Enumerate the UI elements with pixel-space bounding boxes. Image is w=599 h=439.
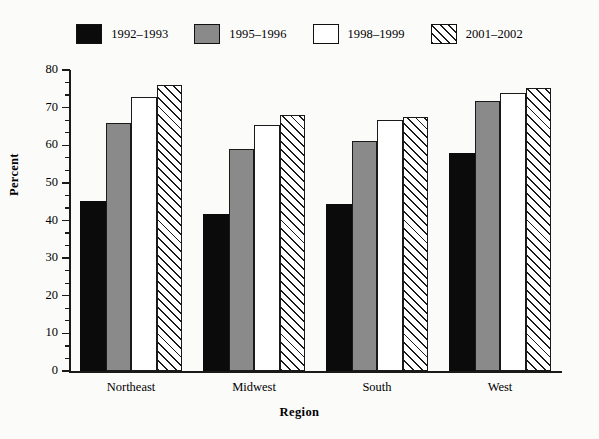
legend-label: 1992–1993 xyxy=(111,27,168,42)
bar xyxy=(131,97,157,371)
plot-area: 01020304050607080 NortheastMidwestSouthW… xyxy=(70,70,562,371)
y-axis-tick-label: 30 xyxy=(24,250,58,265)
bar xyxy=(280,115,306,371)
y-axis-tick-label: 20 xyxy=(24,288,58,303)
bar xyxy=(80,201,106,371)
bar xyxy=(403,117,429,371)
legend-swatch-solid-black-icon xyxy=(76,24,102,44)
y-axis-minor-tick xyxy=(65,195,70,196)
y-axis-minor-tick xyxy=(65,170,70,171)
y-axis-minor-tick xyxy=(65,270,70,271)
y-axis-tick-label: 10 xyxy=(24,325,58,340)
bar xyxy=(500,93,526,371)
y-axis-minor-tick xyxy=(65,232,70,233)
y-axis-minor-tick xyxy=(65,245,70,246)
y-axis-major-tick xyxy=(62,370,70,371)
bar-chart-figure: 1992–1993 1995–1996 1998–1999 2001–2002 … xyxy=(0,0,599,439)
bar xyxy=(377,120,403,371)
legend-item-1992-1993: 1992–1993 xyxy=(76,24,168,44)
bar xyxy=(526,88,552,371)
legend-label: 2001–2002 xyxy=(466,27,523,42)
bar xyxy=(475,101,501,371)
x-axis-spine xyxy=(69,371,562,373)
legend-item-2001-2002: 2001–2002 xyxy=(431,24,523,44)
y-axis-major-tick xyxy=(62,69,70,70)
x-axis-tick-label: South xyxy=(307,380,447,395)
y-axis-minor-tick xyxy=(65,157,70,158)
bar xyxy=(352,141,378,371)
x-axis-title: Region xyxy=(0,405,599,420)
y-axis-tick-label: 0 xyxy=(24,363,58,378)
bar xyxy=(106,123,132,371)
bar-group xyxy=(449,70,551,371)
y-axis-major-tick xyxy=(62,333,70,334)
y-axis-major-tick xyxy=(62,295,70,296)
y-axis-tick-label: 60 xyxy=(24,137,58,152)
y-axis-minor-tick xyxy=(65,120,70,121)
y-axis-tick-label: 80 xyxy=(24,62,58,77)
bar-group xyxy=(80,70,182,371)
bar xyxy=(254,125,280,371)
y-axis-major-tick xyxy=(62,182,70,183)
y-axis-minor-tick xyxy=(65,308,70,309)
bar xyxy=(229,149,255,371)
legend-item-1995-1996: 1995–1996 xyxy=(194,24,286,44)
legend-label: 1998–1999 xyxy=(348,27,405,42)
y-axis-major-tick xyxy=(62,220,70,221)
y-axis-tick-label: 50 xyxy=(24,175,58,190)
bar xyxy=(449,153,475,371)
legend-item-1998-1999: 1998–1999 xyxy=(313,24,405,44)
y-axis-minor-tick xyxy=(65,132,70,133)
y-axis-title: Percent xyxy=(7,153,22,196)
y-axis-tick-label: 70 xyxy=(24,100,58,115)
y-axis-minor-tick xyxy=(65,207,70,208)
bar xyxy=(203,214,229,371)
y-axis-major-tick xyxy=(62,145,70,146)
x-axis-tick-label: Midwest xyxy=(184,380,324,395)
bar xyxy=(326,204,352,371)
y-axis-minor-tick xyxy=(65,345,70,346)
legend-label: 1995–1996 xyxy=(229,27,286,42)
chart-legend: 1992–1993 1995–1996 1998–1999 2001–2002 xyxy=(0,24,599,44)
y-axis-minor-tick xyxy=(65,82,70,83)
y-axis-minor-tick xyxy=(65,358,70,359)
y-axis-minor-tick xyxy=(65,94,70,95)
bar-group xyxy=(326,70,428,371)
x-axis-tick-label: West xyxy=(430,380,570,395)
bar-group xyxy=(203,70,305,371)
y-axis-minor-tick xyxy=(65,283,70,284)
legend-swatch-white-icon xyxy=(313,24,339,44)
legend-swatch-solid-gray-icon xyxy=(194,24,220,44)
x-axis-tick-label: Northeast xyxy=(61,380,201,395)
legend-swatch-hatch-icon xyxy=(431,24,457,44)
bar xyxy=(157,85,183,371)
y-axis-major-tick xyxy=(62,257,70,258)
y-axis-minor-tick xyxy=(65,320,70,321)
y-axis-tick-label: 40 xyxy=(24,213,58,228)
y-axis-major-tick xyxy=(62,107,70,108)
